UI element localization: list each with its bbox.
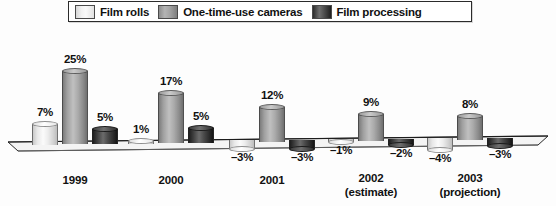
light-gray-swatch-icon xyxy=(75,5,95,19)
legend-label-film-rolls: Film rolls xyxy=(100,6,149,18)
x-axis-sublabel: (estimate) xyxy=(316,185,426,199)
legend-item-film-rolls: Film rolls xyxy=(75,5,149,19)
x-axis-year: 2000 xyxy=(159,174,184,186)
legend-item-one-time-use-cameras: One-time-use cameras xyxy=(158,5,302,19)
legend-label-one-time-use-cameras: One-time-use cameras xyxy=(183,6,302,18)
legend-item-film-processing: Film processing xyxy=(312,5,422,19)
value-label: –3% xyxy=(474,148,526,160)
value-label: –4% xyxy=(414,152,466,164)
x-axis-label-2001: 2001 xyxy=(217,173,327,187)
x-axis-year: 2002 xyxy=(359,172,384,184)
bar-body xyxy=(457,116,483,140)
x-axis-year: 1999 xyxy=(63,174,88,186)
x-axis-year: 2003 xyxy=(458,172,483,184)
x-axis-label-1999: 1999 xyxy=(20,173,130,187)
bar-group-2003: –4%8%–3% xyxy=(0,26,556,171)
x-axis-label-2002: 2002(estimate) xyxy=(316,171,426,199)
x-axis-year: 2001 xyxy=(260,174,285,186)
x-axis-sublabel: (projection) xyxy=(415,185,525,199)
x-axis-label-2000: 2000 xyxy=(116,173,226,187)
x-axis-label-2003: 2003(projection) xyxy=(415,171,525,199)
legend-label-film-processing: Film processing xyxy=(337,6,422,18)
plot-area: 7%25%5%1%17%5%–3%12%–3%–1%9%–2%–4%8%–3% xyxy=(0,26,556,171)
medium-gray-swatch-icon xyxy=(158,5,178,19)
value-label: 8% xyxy=(444,98,496,110)
chart-container: Film rolls One-time-use cameras Film pro… xyxy=(0,0,556,206)
chart-legend: Film rolls One-time-use cameras Film pro… xyxy=(68,1,472,22)
dark-gray-swatch-icon xyxy=(312,5,332,19)
